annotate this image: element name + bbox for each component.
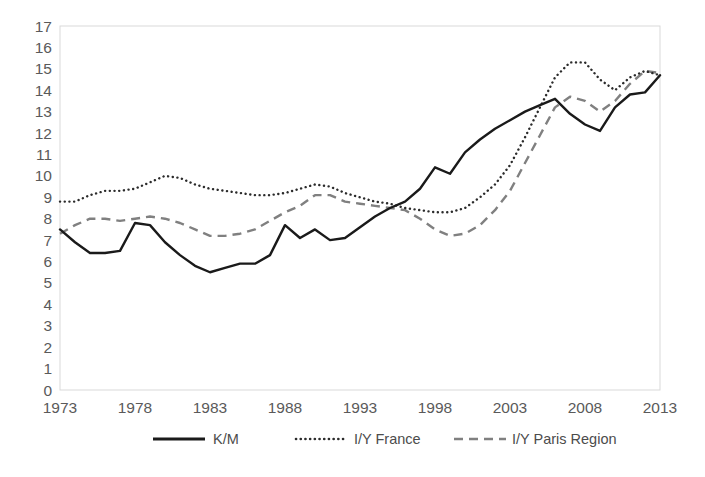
- y-axis-tick-label: 15: [35, 60, 52, 77]
- y-axis-tick-label: 13: [35, 103, 52, 120]
- line-chart: 01234567891011121314151617 1973197819831…: [0, 0, 705, 477]
- y-axis-tick-label: 12: [35, 125, 52, 142]
- legend-label-i-y-paris-region: I/Y Paris Region: [512, 431, 617, 447]
- y-axis-tick-label: 14: [35, 82, 53, 99]
- y-axis-tick-label: 2: [43, 339, 52, 356]
- x-axis-tick-label: 1988: [268, 399, 302, 416]
- x-axis-tick-label: 2013: [643, 399, 677, 416]
- x-axis-tick-label: 1973: [43, 399, 77, 416]
- x-axis-tick-label: 2003: [493, 399, 527, 416]
- y-axis-tick-label: 3: [43, 317, 52, 334]
- y-axis-tick-label: 11: [36, 146, 52, 163]
- chart-canvas: 01234567891011121314151617 1973197819831…: [0, 0, 705, 477]
- x-axis-tick-label: 1993: [343, 399, 377, 416]
- chart-legend: K/MI/Y FranceI/Y Paris Region: [153, 431, 617, 447]
- y-axis-tick-label: 1: [43, 360, 52, 377]
- x-axis-tick-label: 1983: [193, 399, 227, 416]
- y-axis-tick-label: 16: [35, 39, 52, 56]
- y-axis-tick-label: 17: [35, 18, 52, 35]
- legend-label-k-m: K/M: [213, 431, 239, 447]
- x-axis-tick-label: 2008: [568, 399, 602, 416]
- x-axis-tick-label: 1998: [418, 399, 452, 416]
- y-axis-tick-label: 5: [43, 274, 52, 291]
- y-axis-tick-label: 6: [43, 253, 52, 270]
- y-axis-tick-label: 0: [43, 382, 52, 399]
- y-axis-tick-label: 10: [35, 167, 53, 184]
- legend-label-i-y-france: I/Y France: [354, 431, 421, 447]
- y-axis-tick-label: 4: [43, 296, 52, 313]
- y-axis-tick-label: 7: [43, 232, 52, 249]
- y-axis-tick-label: 9: [43, 189, 52, 206]
- x-axis: 197319781983198819931998200320082013: [43, 399, 677, 416]
- y-axis-tick-label: 8: [43, 210, 52, 227]
- x-axis-tick-label: 1978: [118, 399, 152, 416]
